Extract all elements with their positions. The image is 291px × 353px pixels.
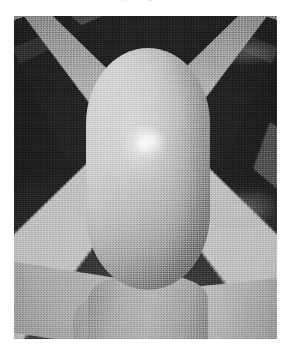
clipped-caption-strip: ted from the supporting surface bbox=[0, 0, 291, 8]
figure-image bbox=[14, 16, 277, 339]
rendered-scene bbox=[14, 16, 277, 339]
specular-highlight bbox=[132, 126, 166, 156]
clipped-caption-text: ted from the supporting surface bbox=[62, 0, 242, 2]
capsule-object bbox=[86, 48, 210, 290]
capsule-rim-shading bbox=[86, 48, 210, 290]
